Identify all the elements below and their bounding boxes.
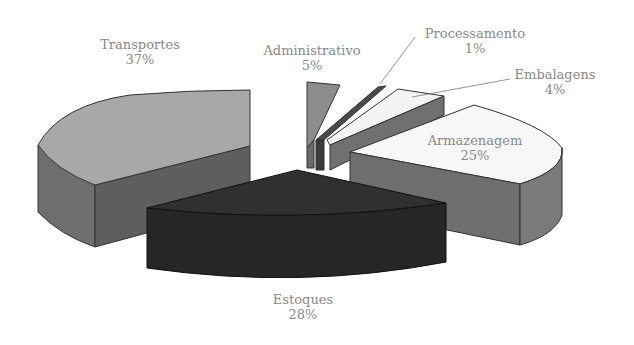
label-processamento: Processamento 1% <box>420 26 530 56</box>
label-estoques-name: Estoques <box>258 292 348 307</box>
label-administrativo-pct: 5% <box>257 58 367 73</box>
label-estoques: Estoques 28% <box>258 292 348 322</box>
label-armazenagem: Armazenagem 25% <box>425 133 525 163</box>
label-transportes: Transportes 37% <box>90 37 190 67</box>
label-administrativo-name: Administrativo <box>257 43 367 58</box>
label-administrativo: Administrativo 5% <box>257 43 367 73</box>
leader-line-embalagens <box>412 79 510 97</box>
label-estoques-pct: 28% <box>258 307 348 322</box>
label-transportes-pct: 37% <box>90 52 190 67</box>
label-processamento-name: Processamento <box>420 26 530 41</box>
label-embalagens-name: Embalagens <box>510 67 600 82</box>
label-embalagens: Embalagens 4% <box>510 67 600 97</box>
leader-line-processamento <box>380 37 415 84</box>
label-embalagens-pct: 4% <box>510 82 600 97</box>
label-armazenagem-name: Armazenagem <box>425 133 525 148</box>
label-processamento-pct: 1% <box>420 41 530 56</box>
label-transportes-name: Transportes <box>90 37 190 52</box>
label-armazenagem-pct: 25% <box>425 148 525 163</box>
